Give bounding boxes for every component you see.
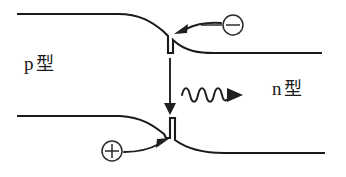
photon-wave-shaft (182, 88, 228, 102)
recombination-arrow-head (164, 103, 176, 115)
photon-arrow-head (227, 88, 243, 102)
hole-symbol (102, 141, 122, 161)
p-type-label-cjk: 型 (36, 53, 55, 74)
band-diagram-figure: p型 n型 (0, 0, 346, 177)
hole-arrow-shaft (124, 144, 159, 152)
hole-injection-arrow (124, 138, 170, 152)
valence-band-line (17, 116, 325, 153)
n-type-label-cjk: 型 (284, 78, 303, 99)
recombination-arrow (164, 58, 176, 115)
electron-arrow-head (174, 24, 188, 34)
hole-arrow-head (156, 138, 170, 148)
conduction-band-line (17, 14, 322, 53)
p-type-label-latin: p (24, 53, 34, 74)
n-type-label-latin: n (272, 78, 282, 99)
n-type-region-label: n型 (272, 79, 303, 98)
electron-symbol (201, 15, 243, 35)
p-type-region-label: p型 (24, 54, 55, 73)
electron-arrow-shaft (186, 23, 221, 29)
photon-emission-arrow (182, 88, 243, 102)
